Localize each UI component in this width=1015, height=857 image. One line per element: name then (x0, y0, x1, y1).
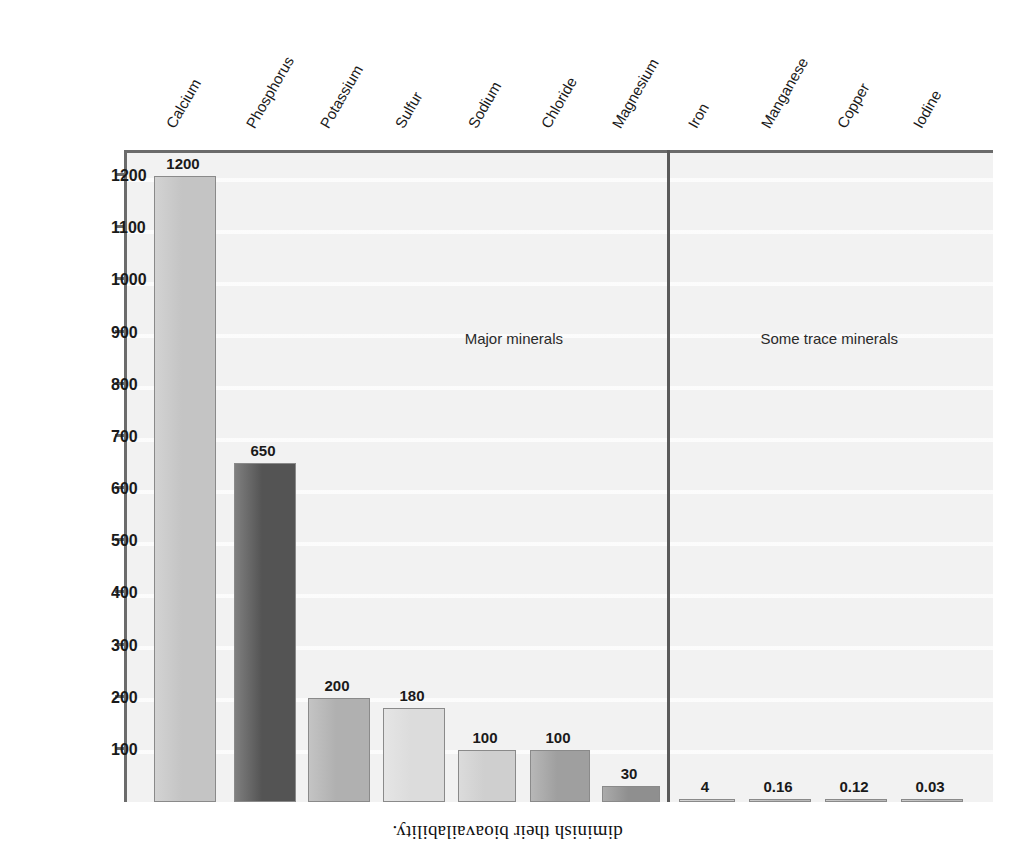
category-label-copper: Copper (833, 80, 872, 131)
plot-area: 0.030.120.164301001001802006501200 Some … (127, 150, 993, 802)
y-tick-label: 300 (111, 637, 138, 655)
figure-page: diminish their bioavailability. 0.030.12… (0, 0, 1015, 857)
y-tick-label: 700 (111, 428, 138, 446)
y-tick-label: 1200 (111, 167, 147, 185)
bar-value-label: 0.12 (834, 778, 874, 795)
bar-sulfur (383, 708, 445, 802)
category-label-sulfur: Sulfur (391, 89, 425, 131)
category-label-magnesium: Magnesium (608, 55, 661, 131)
bar-sodium (458, 750, 516, 802)
bar-value-label: 100 (538, 729, 578, 746)
group-divider (667, 150, 670, 802)
bar-value-label: 180 (392, 687, 432, 704)
bar-value-label: 100 (465, 729, 505, 746)
category-label-calcium: Calcium (162, 76, 204, 131)
figure-caption: diminish their bioavailability. (0, 821, 1015, 843)
category-label-iodine: Iodine (909, 87, 944, 131)
bar-phosphorus (234, 463, 296, 802)
y-tick-label: 900 (111, 324, 138, 342)
bar-value-label: 650 (243, 442, 283, 459)
y-tick-label: 1100 (111, 219, 146, 237)
bar-value-label: 4 (685, 778, 725, 795)
bar-calcium (154, 176, 216, 802)
bar-chloride (530, 750, 590, 802)
y-tick-label: 500 (111, 532, 138, 550)
bar-iodine (901, 799, 963, 802)
category-label-sodium: Sodium (464, 78, 504, 131)
y-tick-label: 100 (111, 741, 138, 759)
group-caption-major: Major minerals (465, 330, 563, 347)
y-tick-label: 200 (111, 689, 138, 707)
bar-copper (825, 799, 887, 802)
bar-chart: 0.030.120.164301001001802006501200 Some … (0, 42, 1015, 802)
bar-magnesium (602, 786, 660, 802)
category-label-chloride: Chloride (537, 74, 580, 131)
category-label-iron: Iron (684, 100, 712, 131)
y-tick-label: 800 (111, 376, 138, 394)
y-tick-label: 400 (111, 584, 138, 602)
bar-value-label: 1200 (163, 155, 203, 172)
bar-iron (679, 799, 735, 802)
group-caption-trace: Some trace minerals (760, 330, 898, 347)
category-label-manganese: Manganese (757, 55, 811, 131)
bar-value-label: 0.03 (910, 778, 950, 795)
bar-value-label: 200 (317, 677, 357, 694)
category-label-phosphorus: Phosphorus (242, 53, 297, 131)
bar-potassium (308, 698, 370, 802)
bar-value-label: 0.16 (758, 778, 798, 795)
bar-manganese (749, 799, 811, 802)
y-tick-label: 1000 (111, 271, 147, 289)
bar-value-label: 30 (609, 765, 649, 782)
category-label-potassium: Potassium (316, 62, 366, 131)
y-tick-label: 600 (111, 480, 138, 498)
